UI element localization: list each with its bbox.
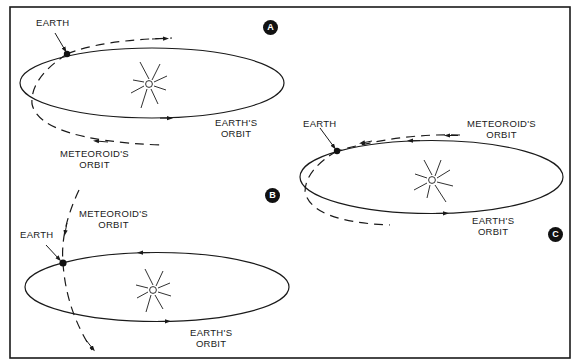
earth-orbit-label-c: EARTH'S ORBIT [472,215,514,237]
earth-dot-b [59,259,66,266]
meteoroid-orbit-label-b: METEOROID'S ORBIT [79,208,148,230]
panel-b [25,190,289,350]
meteoroid-arrow-icon-a-lower [96,141,108,142]
meteoroid-orbit-label-c: METEOROID'S ORBIT [467,118,536,140]
meteoroid-orbit-c-lower [305,151,390,225]
earth-pointer-icon-b [46,245,59,259]
earth-dot-c [334,148,340,154]
panel-badge-b: B [265,188,280,203]
meteoroid-arrow-icon-a-upper [152,39,166,40]
earth-pointer-icon-a [55,33,65,50]
earth-label-c: EARTH [303,118,337,129]
meteoroid-orbit-diagram: A EARTH EARTH'S ORBIT METEOROID'S ORBIT … [0,0,578,364]
panel-badge-c: C [548,227,563,242]
earth-pointer-icon-c [320,128,334,147]
meteoroid-orbit-c-upper [337,135,460,151]
sun-icon-b [136,269,171,312]
meteoroid-orbit-label-a: METEOROID'S ORBIT [60,148,129,170]
earth-label-b: EARTH [20,229,54,240]
meteoroid-orbit-a-lower [32,54,160,145]
sun-icon-c [414,160,453,202]
sun-icon-a [131,62,167,108]
earth-dot-a [64,51,70,57]
earth-orbit-label-b: EARTH'S ORBIT [190,327,232,349]
earth-orbit-label-a: EARTH'S ORBIT [215,117,257,139]
earth-label-a: EARTH [36,17,70,28]
meteoroid-arrow-icon-b-lower [86,340,93,349]
diagram-canvas [0,0,578,364]
panel-badge-a: A [263,20,278,35]
panel-c [300,128,563,225]
meteoroid-orbit-a-upper [67,38,172,54]
figure-frame [10,7,570,358]
